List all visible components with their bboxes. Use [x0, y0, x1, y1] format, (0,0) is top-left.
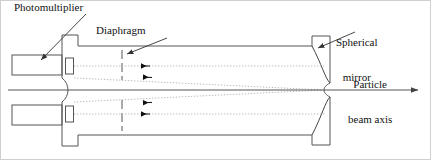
cherenkov-counter-diagram: Photomultiplier Diaphragm Spherical mirr… — [0, 0, 431, 160]
ray-lower-inner — [74, 90, 325, 102]
label-diaphragm: Diaphragm — [96, 25, 145, 37]
label-spherical-mirror-line1: Spherical — [336, 37, 378, 49]
light-guide-top — [66, 58, 74, 74]
label-particle-beam-axis: Particle beam axis — [348, 56, 392, 148]
ray-upper-inner — [74, 78, 325, 90]
spherical-mirror-curve-lower — [312, 97, 330, 135]
photomultiplier-box-top — [12, 55, 62, 75]
leader-photomultiplier — [41, 14, 86, 60]
spherical-mirror-curve-upper — [312, 46, 330, 83]
light-guide-bottom — [66, 106, 74, 122]
label-photomultiplier: Photomultiplier — [14, 2, 83, 14]
label-particle-beam-axis-line2: beam axis — [348, 114, 392, 126]
photomultiplier-box-bottom — [12, 105, 62, 125]
label-particle-beam-axis-line1: Particle — [348, 79, 392, 91]
